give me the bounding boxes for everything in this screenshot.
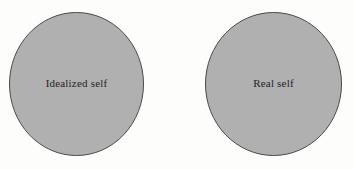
label-idealized-self: Idealized self	[9, 77, 144, 90]
self-concept-diagram: Idealized self Real self	[0, 0, 353, 169]
label-real-self: Real self	[205, 77, 342, 90]
